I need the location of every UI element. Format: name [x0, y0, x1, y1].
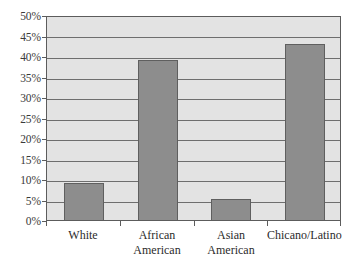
x-axis-tick-mark	[340, 221, 341, 226]
x-axis-labels: WhiteAfricanAmericanAsianAmericanChicano…	[46, 228, 341, 272]
y-axis-tick-mark	[42, 160, 46, 161]
x-axis-category-label: AsianAmerican	[194, 228, 268, 258]
gridline	[47, 37, 340, 38]
x-axis-tick-mark	[194, 221, 195, 226]
bar	[64, 183, 104, 220]
x-axis-category-label: White	[46, 228, 120, 243]
y-axis-tick-label: 25%	[0, 112, 41, 126]
bar	[285, 44, 325, 220]
x-axis-category-label: Chicano/Latino	[267, 228, 341, 243]
y-axis-tick-mark	[42, 16, 46, 17]
y-axis-tick-label: 20%	[0, 132, 41, 146]
y-axis-tick-mark	[42, 37, 46, 38]
y-axis-tick-mark	[42, 57, 46, 58]
x-axis-category-label-line: African	[120, 228, 194, 243]
x-axis-tick-mark	[267, 221, 268, 226]
y-axis-tick-label: 5%	[0, 194, 41, 208]
y-axis-tick-mark	[42, 180, 46, 181]
y-axis-tick-mark	[42, 119, 46, 120]
y-axis-tick-label: 10%	[0, 173, 41, 187]
y-axis: 50%45%40%35%30%25%20%15%10%5%0%	[0, 16, 41, 221]
bar	[211, 199, 251, 220]
y-axis-tick-mark	[42, 139, 46, 140]
x-axis-category-label-line: American	[120, 243, 194, 258]
y-axis-tick-label: 30%	[0, 91, 41, 105]
y-axis-tick-label: 45%	[0, 30, 41, 44]
x-axis-category-label-line: Asian	[194, 228, 268, 243]
x-axis-category-label: AfricanAmerican	[120, 228, 194, 258]
plot-area	[46, 16, 341, 221]
y-axis-tick-label: 35%	[0, 71, 41, 85]
x-axis-tick-mark	[120, 221, 121, 226]
y-axis-tick-label: 40%	[0, 50, 41, 64]
x-axis-tick-mark	[46, 221, 47, 226]
x-axis-category-label-line: White	[46, 228, 120, 243]
y-axis-tick-mark	[42, 78, 46, 79]
x-axis-category-label-line: American	[194, 243, 268, 258]
y-axis-tick-label: 0%	[0, 214, 41, 228]
y-axis-tick-label: 50%	[0, 9, 41, 23]
y-axis-tick-mark	[42, 201, 46, 202]
bar	[138, 60, 178, 220]
y-axis-tick-mark	[42, 98, 46, 99]
x-axis-category-label-line: Chicano/Latino	[267, 228, 341, 243]
y-axis-tick-label: 15%	[0, 153, 41, 167]
bar-chart: 50%45%40%35%30%25%20%15%10%5%0% WhiteAfr…	[0, 0, 358, 272]
